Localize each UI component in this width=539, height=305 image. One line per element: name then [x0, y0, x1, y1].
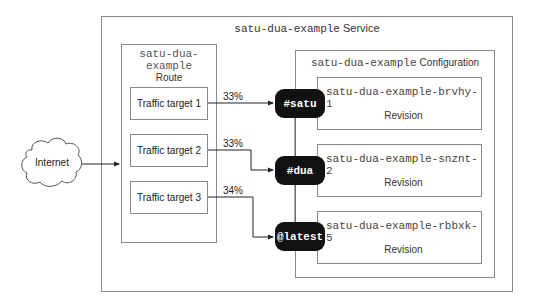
tag-latest: @latest — [275, 222, 325, 251]
tag-satu: #satu — [275, 89, 325, 118]
connectors — [0, 0, 539, 305]
internet-label: Internet — [22, 157, 82, 168]
traffic-percent-2: 33% — [223, 138, 243, 149]
traffic-percent-3: 34% — [223, 185, 243, 196]
traffic-percent-1: 33% — [223, 91, 243, 102]
tag-dua: #dua — [275, 156, 325, 185]
